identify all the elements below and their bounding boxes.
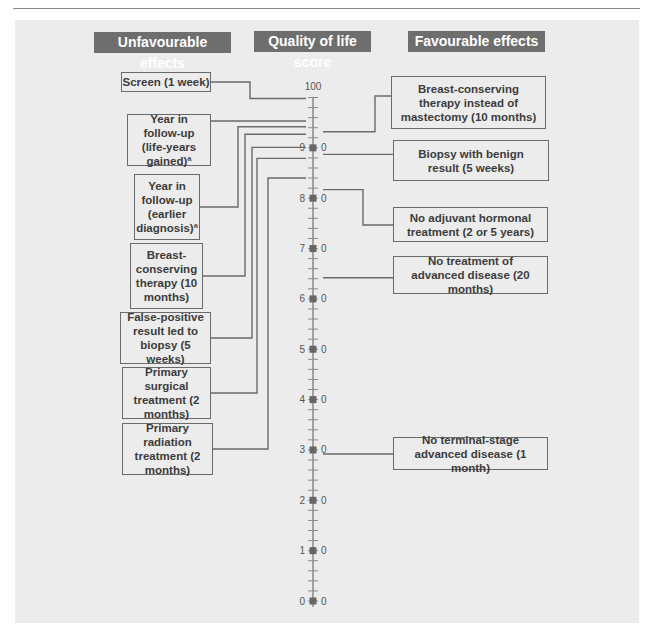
connector-lines — [200, 82, 393, 454]
major-tick-marker — [310, 195, 317, 202]
tick-label-left: 7 — [299, 243, 305, 254]
major-tick-marker — [310, 446, 317, 453]
tick-label-left: 3 — [299, 444, 305, 455]
tick-label-left: 5 — [299, 344, 305, 355]
major-tick-marker — [310, 497, 317, 504]
major-tick-marker — [310, 346, 317, 353]
tick-label-left: 0 — [299, 596, 305, 607]
major-tick-marker — [310, 144, 317, 151]
tick-label-right: 0 — [321, 545, 327, 556]
tick-label-right: 0 — [321, 142, 327, 153]
tick-label-right: 0 — [321, 243, 327, 254]
connector-unfavourable — [203, 134, 306, 276]
major-tick-marker — [310, 295, 317, 302]
tick-label-right: 0 — [321, 193, 327, 204]
scale-and-connectors: 10090807060504030201000 — [0, 0, 653, 642]
connector-unfavourable — [213, 178, 306, 449]
quality-of-life-axis: 10090807060504030201000 — [299, 81, 327, 608]
tick-label-left: 2 — [299, 495, 305, 506]
tick-label-right: 0 — [321, 293, 327, 304]
tick-label-left: 1 — [299, 545, 305, 556]
tick-label-left: 8 — [299, 193, 305, 204]
major-tick-marker — [310, 396, 317, 403]
tick-label-right: 0 — [321, 394, 327, 405]
tick-label-left: 6 — [299, 293, 305, 304]
connector-unfavourable — [211, 147, 306, 338]
tick-label-right: 0 — [321, 344, 327, 355]
major-tick-marker — [310, 598, 317, 605]
connector-favourable — [323, 190, 393, 225]
tick-label-left: 4 — [299, 394, 305, 405]
major-tick-marker — [310, 547, 317, 554]
connector-unfavourable — [211, 82, 306, 99]
tick-label-top: 100 — [305, 81, 322, 92]
tick-label-right: 0 — [321, 495, 327, 506]
major-tick-marker — [310, 245, 317, 252]
connector-favourable — [323, 96, 391, 132]
connector-unfavourable — [200, 127, 306, 207]
tick-label-right: 0 — [321, 596, 327, 607]
